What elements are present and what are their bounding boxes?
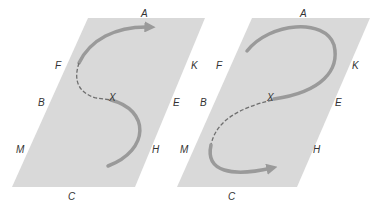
label-A: A <box>140 8 148 19</box>
left-panel: A F B X E K M H C <box>12 8 205 202</box>
label-H: H <box>152 144 160 155</box>
label-K: K <box>352 60 360 71</box>
label-E: E <box>335 97 342 108</box>
label-E: E <box>173 97 180 108</box>
label-B: B <box>38 97 45 108</box>
label-F: F <box>55 60 62 71</box>
label-M: M <box>16 144 25 155</box>
label-C: C <box>228 191 236 202</box>
label-C: C <box>68 191 76 202</box>
label-F: F <box>216 60 223 71</box>
label-A: A <box>299 8 307 19</box>
right-panel: A F B X E K M H C <box>177 8 370 202</box>
label-M: M <box>180 144 189 155</box>
label-X: X <box>266 92 274 103</box>
diagram: A F B X E K M H C A F B X E K M H C <box>0 0 374 210</box>
label-H: H <box>313 144 321 155</box>
label-K: K <box>191 60 199 71</box>
label-B: B <box>200 97 207 108</box>
label-X: X <box>108 92 116 103</box>
